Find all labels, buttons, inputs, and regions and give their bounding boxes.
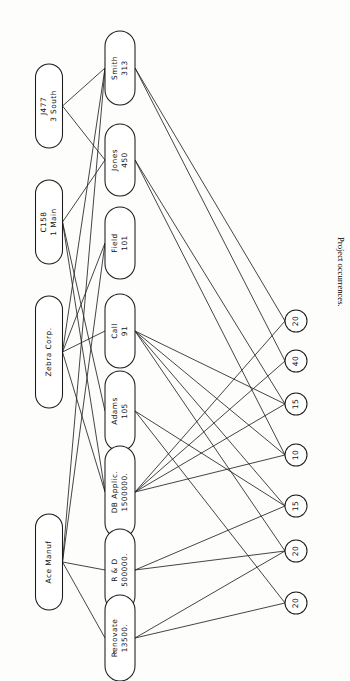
edge-r0-o0: [135, 68, 285, 321]
customer-node-c0[interactable]: J4773 South: [36, 64, 63, 148]
figure-root: J4773 SouthC1581 MainZebra Corp.Ace Manu…: [0, 0, 350, 681]
edge-c2-r5: [63, 352, 106, 492]
edge-r3-o4: [135, 331, 285, 506]
occurrence-node-o6[interactable]: 20: [285, 592, 307, 614]
customer-node-c2-line1: Zebra Corp.: [44, 328, 53, 377]
edge-r3-o5: [135, 331, 285, 551]
edge-c3-r6: [63, 562, 106, 570]
customer-node-c1[interactable]: C1581 Main: [36, 180, 63, 264]
edge-r5-o2: [135, 404, 285, 492]
record-node-r5-line2: 1500000.: [120, 473, 129, 512]
record-node-r3-line1: Call: [110, 323, 119, 339]
record-node-r7-line2: 13500.: [120, 624, 129, 653]
edge-c3-r7: [63, 562, 106, 638]
record-node-r6-line1: R & D: [110, 558, 119, 582]
record-node-r2-line2: 101: [120, 235, 129, 250]
record-node-r4[interactable]: Adams105: [105, 371, 135, 451]
edge-c2-r2: [63, 243, 106, 352]
edge-r7-o5: [135, 551, 285, 638]
edge-r7-o6: [135, 603, 285, 638]
edge-c1-r5: [63, 222, 106, 492]
occurrence-node-o3-value: 10: [291, 450, 300, 460]
edge-r4-o6: [135, 411, 285, 603]
record-node-r1-line2: 450: [120, 152, 129, 167]
record-node-r0[interactable]: Smith313: [105, 31, 135, 105]
record-node-r5-line1: DB Applic.: [110, 471, 119, 514]
occurrence-node-o6-value: 20: [291, 598, 300, 608]
record-node-r3-line2: 91: [120, 326, 129, 336]
customer-node-c3-line1: Ace Manuf: [44, 541, 53, 584]
record-node-r1-line1: Jones: [110, 149, 119, 172]
occurrence-node-o4-value: 15: [291, 501, 300, 511]
record-node-r3[interactable]: Call91: [105, 294, 135, 368]
edge-r5-o1: [135, 361, 285, 492]
customer-node-c1-line2: 1 Main: [49, 208, 58, 235]
record-node-r5[interactable]: DB Applic.1500000.: [105, 446, 135, 538]
edges-layer: [63, 68, 286, 638]
edge-r4-o4: [135, 411, 285, 506]
edge-r5-o0: [135, 321, 285, 492]
edge-r1-o3: [135, 160, 285, 455]
customer-node-c0-line2: 3 South: [49, 90, 58, 122]
edge-c0-r0: [63, 68, 106, 106]
figure-caption: Fig. 9.6 Project occurrences.: [320, 0, 346, 681]
record-node-r6-line2: 500000.: [120, 553, 129, 587]
occurrence-node-o5-value: 20: [291, 546, 300, 556]
edge-c3-r2: [63, 243, 106, 562]
customer-node-c0-line1: J477: [39, 97, 48, 116]
record-node-r4-line1: Adams: [110, 397, 119, 424]
customer-node-c1-line1: C158: [39, 211, 48, 232]
record-node-r2-line1: Field: [110, 233, 119, 252]
edge-c3-r0: [63, 68, 106, 562]
record-node-r2[interactable]: Field101: [105, 207, 135, 279]
occurrence-node-o5[interactable]: 20: [285, 540, 307, 562]
edge-r0-o1: [135, 68, 285, 361]
occurrence-node-o1[interactable]: 40: [285, 350, 307, 372]
edge-r5-o3: [135, 455, 285, 492]
occurrence-node-o1-value: 40: [291, 356, 300, 366]
occurrence-node-o2[interactable]: 15: [285, 393, 307, 415]
project-occurrences-diagram: J4773 SouthC1581 MainZebra Corp.Ace Manu…: [0, 0, 350, 681]
record-node-r4-line2: 105: [120, 403, 129, 418]
occurrence-node-o0[interactable]: 20: [285, 310, 307, 332]
caption-text: Project occurrences.: [336, 237, 346, 307]
record-node-r0-line2: 313: [120, 60, 129, 75]
occurrence-node-o3[interactable]: 10: [285, 444, 307, 466]
occurrence-node-o4[interactable]: 15: [285, 495, 307, 517]
edge-c2-r0: [63, 68, 106, 352]
record-node-r0-line1: Smith: [110, 56, 119, 80]
edge-c2-r3: [63, 331, 106, 352]
page-speck: [113, 651, 115, 654]
edge-c0-r1: [63, 106, 106, 160]
record-node-r7[interactable]: Renovate13500.: [105, 595, 135, 681]
record-node-r1[interactable]: Jones450: [105, 124, 135, 196]
occurrence-node-o0-value: 20: [291, 316, 300, 326]
occurrence-node-o2-value: 15: [291, 399, 300, 409]
customer-node-c3[interactable]: Ace Manuf: [36, 514, 63, 610]
customer-node-c2[interactable]: Zebra Corp.: [36, 296, 63, 408]
